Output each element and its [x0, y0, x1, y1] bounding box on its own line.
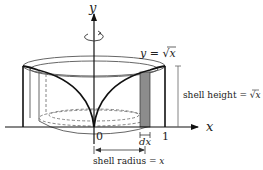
shell-method-diagram: y x 0 1 y = √x shell height = √x dx shel… — [0, 0, 263, 170]
x-tick-1-label: 1 — [162, 130, 169, 143]
shell-strip — [140, 72, 150, 127]
origin-label: 0 — [96, 130, 103, 143]
curve-label: y = √x — [139, 47, 176, 60]
shell-radius-label: shell radius = x — [93, 156, 164, 166]
svg-text:y = √x: y = √x — [139, 47, 176, 60]
shell-height-label: shell height = √x — [183, 90, 261, 100]
x-axis-label: x — [206, 119, 214, 134]
svg-text:shell height = √x: shell height = √x — [183, 90, 261, 100]
dx-label: dx — [139, 136, 151, 147]
y-axis-label: y — [88, 0, 97, 15]
cylinder-walls — [30, 67, 39, 121]
